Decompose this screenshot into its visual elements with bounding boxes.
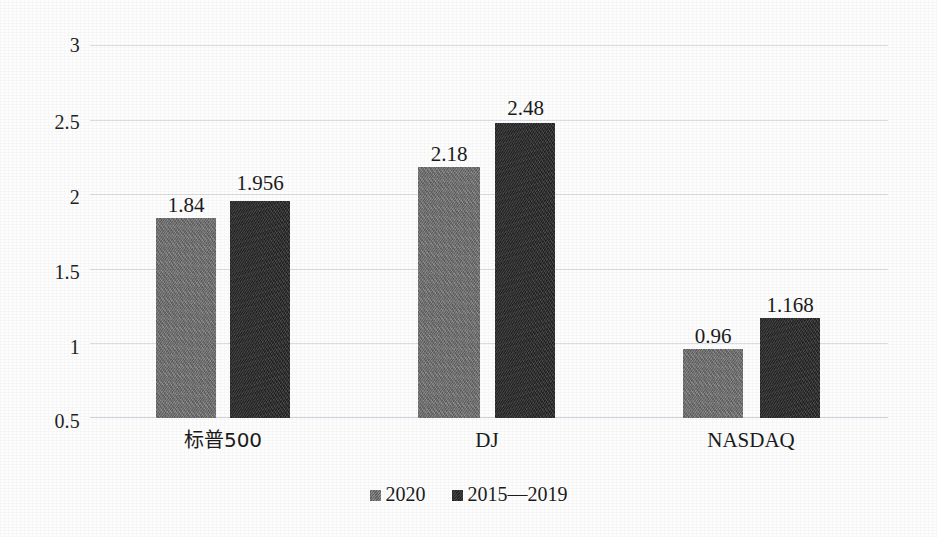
y-tick-label: 2 xyxy=(10,187,80,207)
bar-2015-2019-dj[interactable] xyxy=(495,123,555,418)
chart-figure: 3 2.5 2 1.5 1 0.5 1.84 1.956 2.18 xyxy=(0,0,937,537)
bar-2020-sp500[interactable] xyxy=(156,218,216,418)
plot-area: 1.84 1.956 2.18 2.48 0.96 1.168 xyxy=(90,45,888,418)
bar-2020-dj[interactable] xyxy=(418,167,480,418)
legend-label: 2020 xyxy=(386,484,426,504)
bar-2015-2019-sp500[interactable] xyxy=(230,201,290,418)
bar-fill xyxy=(760,318,820,418)
y-axis: 3 2.5 2 1.5 1 0.5 xyxy=(0,45,80,418)
bar-value-label: 0.96 xyxy=(673,326,753,347)
bar-value-label: 1.168 xyxy=(745,295,835,316)
x-axis-category-label-nasdaq: NASDAQ xyxy=(651,430,851,451)
bar-fill xyxy=(156,218,216,418)
chart-legend: 2020 2015—2019 xyxy=(0,484,937,504)
y-tick-label: 1.5 xyxy=(10,262,80,282)
legend-label: 2015—2019 xyxy=(468,484,568,504)
bar-fill xyxy=(495,123,555,418)
legend-item-2020[interactable]: 2020 xyxy=(370,484,426,504)
y-tick-label: 3 xyxy=(10,35,80,55)
bar-2020-nasdaq[interactable] xyxy=(683,349,743,418)
x-axis-category-label-sp500: 标普500 xyxy=(123,430,323,450)
gridline-2-5 xyxy=(90,120,888,121)
bar-fill xyxy=(230,201,290,418)
gridline-3 xyxy=(90,45,888,46)
bar-fill xyxy=(683,349,743,418)
legend-item-2015-2019[interactable]: 2015—2019 xyxy=(452,484,568,504)
y-tick-label: 1 xyxy=(10,337,80,357)
bar-value-label: 1.956 xyxy=(215,173,305,194)
bar-value-label: 2.48 xyxy=(483,98,568,119)
y-tick-label: 2.5 xyxy=(10,112,80,132)
bar-fill xyxy=(418,167,480,418)
bar-2015-2019-nasdaq[interactable] xyxy=(760,318,820,418)
bar-value-label: 2.18 xyxy=(409,144,489,165)
bar-value-label: 1.84 xyxy=(146,195,226,216)
x-axis-category-label-dj: DJ xyxy=(387,430,587,451)
y-tick-label: 0.5 xyxy=(10,411,80,431)
legend-swatch-icon xyxy=(370,490,381,501)
legend-swatch-icon xyxy=(452,490,463,501)
